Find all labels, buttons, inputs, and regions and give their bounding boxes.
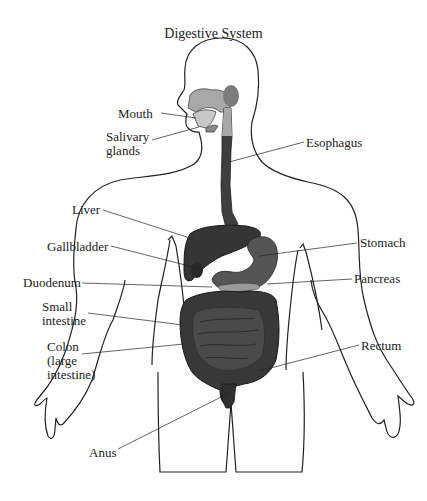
label-esophagus: Esophagus	[306, 136, 362, 149]
label-colon-line2: (large	[47, 354, 77, 367]
label-colon-line3: intestine)	[47, 368, 95, 381]
label-colon-line1: Colon	[47, 340, 79, 353]
label-salivary-glands-line1: Salivary	[106, 130, 149, 143]
label-anus: Anus	[89, 446, 116, 459]
label-stomach: Stomach	[360, 236, 406, 249]
label-salivary-glands-line2: glands	[106, 144, 140, 157]
small-intestine	[193, 307, 265, 370]
label-liver: Liver	[72, 203, 100, 216]
label-mouth: Mouth	[118, 107, 153, 120]
gallbladder	[191, 262, 203, 278]
intestines	[180, 291, 279, 408]
label-small-intestine-line1: Small	[42, 300, 72, 313]
label-duodenum: Duodenum	[23, 276, 81, 289]
label-small-intestine-line2: intestine	[42, 314, 86, 327]
label-rectum: Rectum	[361, 339, 401, 352]
label-pancreas: Pancreas	[354, 272, 400, 285]
label-gallbladder: Gallbladder	[47, 240, 108, 253]
rectum	[222, 384, 236, 408]
